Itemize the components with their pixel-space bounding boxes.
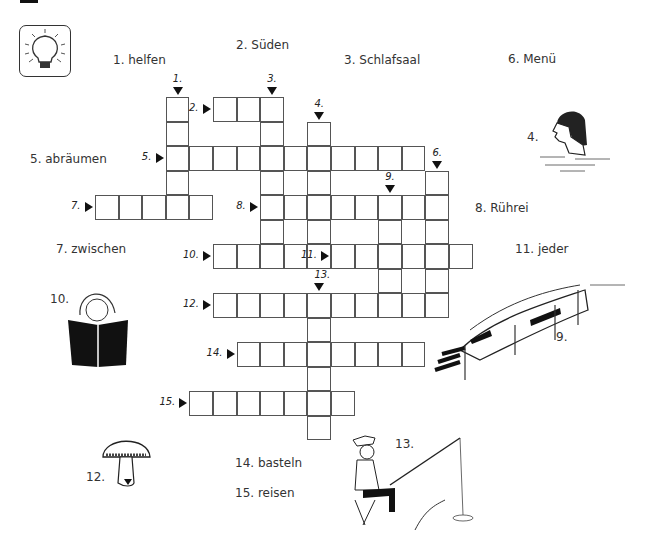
grid-cell[interactable] [260,293,284,318]
grid-cell[interactable] [331,391,355,416]
grid-cell[interactable] [425,220,449,245]
grid-cell[interactable] [355,244,379,269]
grid-cell[interactable] [331,146,355,171]
grid-cell[interactable] [284,391,308,416]
grid-cell[interactable] [166,171,190,196]
grid-cell[interactable] [307,416,331,441]
reading-girl-illustration [60,285,140,370]
grid-cell[interactable] [378,293,402,318]
grid-cell[interactable] [307,122,331,147]
grid-cell[interactable] [355,146,379,171]
grid-cell[interactable] [355,342,379,367]
arrow-right-icon [203,104,211,114]
arrow-right-icon [321,251,329,261]
clue-7: 7. zwischen [56,242,126,256]
grid-cell[interactable] [284,342,308,367]
grid-cell[interactable] [142,195,166,220]
grid-cell[interactable] [284,195,308,220]
grid-cell[interactable] [425,171,449,196]
grid-cell[interactable] [284,293,308,318]
grid-cell[interactable] [378,342,402,367]
grid-cell[interactable] [284,146,308,171]
arrow-down-icon [314,283,324,291]
clue-1: 1. helfen [113,53,166,67]
grid-cell[interactable] [260,171,284,196]
grid-cell[interactable] [237,146,261,171]
grid-cell[interactable] [166,97,190,122]
arrow-right-icon [203,251,211,261]
grid-cell[interactable] [237,391,261,416]
grid-cell[interactable] [166,195,190,220]
grid-cell[interactable] [307,367,331,392]
word-number: 2. [189,102,199,113]
swimmer-illustration [535,105,615,180]
arrow-right-icon [203,300,211,310]
grid-cell[interactable] [378,220,402,245]
header-rule [20,0,38,3]
grid-cell[interactable] [237,97,261,122]
word-number: 11. [301,249,317,260]
arrow-down-icon [267,87,277,95]
grid-cell[interactable] [166,146,190,171]
grid-cell[interactable] [213,146,237,171]
grid-cell[interactable] [189,146,213,171]
grid-cell[interactable] [189,195,213,220]
grid-cell[interactable] [213,391,237,416]
grid-cell[interactable] [307,171,331,196]
grid-cell[interactable] [355,293,379,318]
grid-cell[interactable] [260,391,284,416]
grid-cell[interactable] [425,244,449,269]
grid-cell[interactable] [378,244,402,269]
grid-cell[interactable] [260,195,284,220]
grid-cell[interactable] [425,195,449,220]
grid-cell[interactable] [378,195,402,220]
arrow-right-icon [179,398,187,408]
grid-cell[interactable] [378,269,402,294]
grid-cell[interactable] [95,195,119,220]
grid-cell[interactable] [307,293,331,318]
grid-cell[interactable] [189,391,213,416]
grid-cell[interactable] [260,122,284,147]
grid-cell[interactable] [331,293,355,318]
word-number: 13. [314,269,330,280]
word-number: 14. [207,347,223,358]
grid-cell[interactable] [307,342,331,367]
grid-cell[interactable] [331,342,355,367]
grid-cell[interactable] [307,318,331,343]
word-number: 10. [183,249,199,260]
grid-cell[interactable] [402,293,426,318]
clue-8: 8. Rührei [475,201,529,215]
grid-cell[interactable] [402,244,426,269]
grid-cell[interactable] [307,391,331,416]
grid-cell[interactable] [307,146,331,171]
fisherman-illustration [345,430,475,535]
grid-cell[interactable] [449,244,473,269]
grid-cell[interactable] [355,195,379,220]
grid-cell[interactable] [402,146,426,171]
grid-cell[interactable] [237,293,261,318]
mushroom-illustration [98,435,158,495]
grid-cell[interactable] [260,220,284,245]
grid-cell[interactable] [213,97,237,122]
grid-cell[interactable] [331,244,355,269]
grid-cell[interactable] [237,342,261,367]
grid-cell[interactable] [260,146,284,171]
grid-cell[interactable] [260,97,284,122]
grid-cell[interactable] [213,293,237,318]
arrow-right-icon [156,153,164,163]
grid-cell[interactable] [378,146,402,171]
grid-cell[interactable] [119,195,143,220]
word-number: 6. [432,147,442,158]
word-number: 9. [385,171,395,182]
grid-cell[interactable] [260,244,284,269]
grid-cell[interactable] [237,244,261,269]
grid-cell[interactable] [307,220,331,245]
grid-cell[interactable] [260,342,284,367]
grid-cell[interactable] [166,122,190,147]
grid-cell[interactable] [307,195,331,220]
clue-6: 6. Menü [508,52,556,66]
grid-cell[interactable] [402,195,426,220]
grid-cell[interactable] [331,195,355,220]
grid-cell[interactable] [402,342,426,367]
grid-cell[interactable] [213,244,237,269]
